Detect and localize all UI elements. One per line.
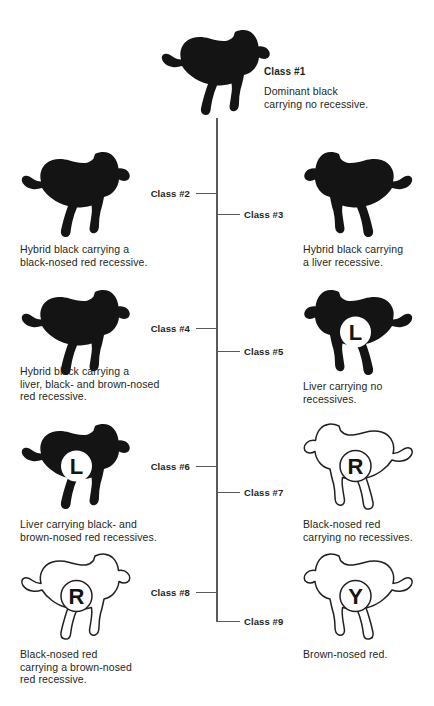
genetics-class-diagram: Class #1 Dominant black carrying no rece… — [0, 0, 434, 706]
branch-class4 — [196, 328, 217, 329]
class8-caption-line-3: red recessive. — [20, 673, 190, 686]
branch-class3 — [216, 214, 240, 215]
badge-letter-class6: L — [70, 454, 83, 479]
class7-caption-line-2: carrying no recessives. — [303, 531, 433, 544]
badge-letter-class8: R — [69, 584, 85, 609]
class5-caption-line-2: recessives. — [303, 393, 433, 406]
class3-caption-line-2: a liver recessive. — [303, 256, 433, 269]
class4-label: Class #4 — [110, 323, 190, 334]
class4-caption-line-2: liver, black- and brown-nosed — [20, 378, 200, 391]
class1-title: Class #1 — [264, 66, 305, 77]
dog-silhouette-class3 — [299, 148, 414, 243]
class8-caption: Black-nosed red carrying a brown-nosed r… — [20, 648, 190, 686]
class1-caption: Dominant black carrying no recessive. — [264, 85, 414, 110]
class4-caption: Hybrid black carrying a liver, black- an… — [20, 365, 200, 403]
branch-class5 — [216, 351, 240, 352]
branch-class6 — [196, 466, 217, 467]
dog-silhouette-class7: R — [299, 420, 414, 515]
dog-shape-filled-left: L — [299, 286, 414, 381]
class8-label: Class #8 — [110, 587, 190, 598]
class2-caption: Hybrid black carrying a black-nosed red … — [20, 243, 195, 268]
class7-label: Class #7 — [244, 487, 283, 498]
badge-letter-class9: Y — [348, 584, 363, 609]
class7-caption-line-1: Black-nosed red — [303, 518, 433, 531]
badge-letter-class5: L — [349, 320, 362, 345]
class2-caption-line-1: Hybrid black carrying a — [20, 243, 195, 256]
branch-class7 — [216, 492, 240, 493]
class2-label: Class #2 — [110, 188, 190, 199]
branch-class2 — [196, 193, 217, 194]
dog-shape-filled-left — [299, 148, 414, 243]
class4-caption-line-1: Hybrid black carrying a — [20, 365, 200, 378]
branch-class9 — [216, 621, 240, 622]
class2-caption-line-2: black-nosed red recessive. — [20, 256, 195, 269]
badge-letter-class7: R — [348, 454, 364, 479]
class1-caption-line-2: carrying no recessive. — [264, 98, 414, 111]
class9-caption: Brown-nosed red. — [303, 648, 433, 661]
class9-label: Class #9 — [244, 616, 283, 627]
class5-caption: Liver carrying no recessives. — [303, 380, 433, 405]
class6-caption-line-1: Liver carrying black- and — [20, 518, 200, 531]
dog-silhouette-class9: Y — [299, 550, 414, 645]
dog-shape-outline-left: R — [299, 420, 414, 515]
class1-caption-line-1: Dominant black — [264, 85, 414, 98]
class3-caption-line-1: Hybrid black carrying — [303, 243, 433, 256]
class8-caption-line-1: Black-nosed red — [20, 648, 190, 661]
class4-caption-line-3: red recessive. — [20, 390, 200, 403]
class6-caption-line-2: brown-nosed red recessives. — [20, 531, 200, 544]
class3-caption: Hybrid black carrying a liver recessive. — [303, 243, 433, 268]
class8-caption-line-2: carrying a brown-nosed — [20, 661, 190, 674]
class3-label: Class #3 — [244, 209, 283, 220]
class5-caption-line-1: Liver carrying no — [303, 380, 433, 393]
branch-class8 — [196, 592, 217, 593]
class6-label: Class #6 — [110, 461, 190, 472]
dog-silhouette-class5: L — [299, 286, 414, 381]
class5-label: Class #5 — [244, 346, 283, 357]
dog-shape-filled-right — [160, 26, 275, 121]
class7-caption: Black-nosed red carrying no recessives. — [303, 518, 433, 543]
dog-shape-outline-left: Y — [299, 550, 414, 645]
class6-caption: Liver carrying black- and brown-nosed re… — [20, 518, 200, 543]
dog-silhouette-class1 — [160, 26, 275, 121]
class9-caption-line-1: Brown-nosed red. — [303, 648, 433, 661]
